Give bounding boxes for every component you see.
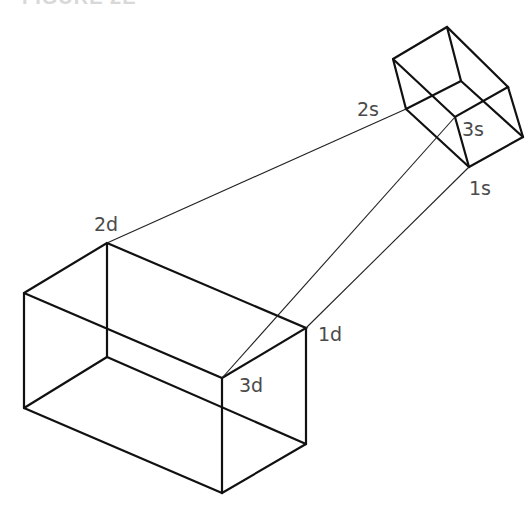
small-box-edge [406,81,461,109]
projection-line-1 [306,167,469,328]
large-box-top-face [24,243,306,378]
label-3d: 3d [239,374,263,396]
label-1d: 1d [318,323,342,345]
label-1s: 1s [469,177,491,199]
large-box-edge [24,408,222,493]
large-box [24,243,306,493]
small-box [393,27,523,167]
small-box-edge [406,109,469,167]
large-box-edge [107,357,306,444]
projection-diagram: 2s 3s 1s 2d 1d 3d [0,0,528,511]
label-3s: 3s [462,118,484,140]
label-2d: 2d [94,213,118,235]
large-box-edge [222,444,306,493]
large-box-edge [24,357,107,408]
small-box-edge [469,137,523,167]
label-2s: 2s [357,98,379,120]
